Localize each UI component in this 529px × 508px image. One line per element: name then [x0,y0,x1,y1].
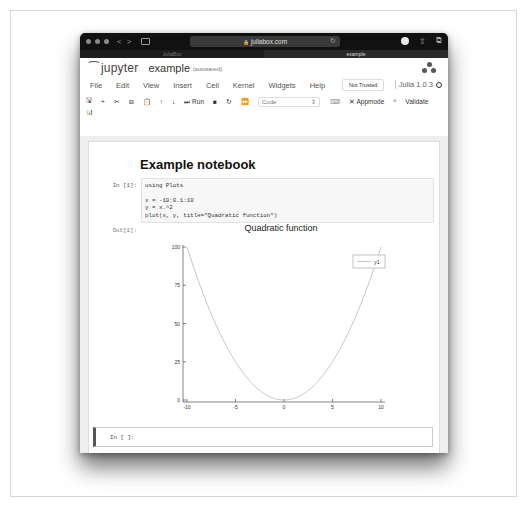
code-cell[interactable]: In [1]: using Plots x = -10:0.1:10 y = x… [89,178,439,223]
stop-icon[interactable]: ■ [213,98,217,105]
validate-button[interactable]: Validate [405,98,428,105]
keyboard-icon[interactable]: ⌨ [330,98,340,106]
menu-kernel[interactable]: Kernel [233,81,255,90]
menu-edit[interactable]: Edit [116,81,129,90]
svg-text:-10: -10 [183,404,190,410]
appmode-button[interactable]: ✕ Appmode [349,98,384,106]
notebook-title: Example notebook [140,157,439,172]
fast-forward-icon[interactable]: ⏩ [241,98,249,106]
kernel-name: Julia 1.0.3 [399,80,433,89]
minimize-dot-icon[interactable] [95,39,100,44]
empty-code-cell[interactable]: In [ ]: [93,427,433,447]
output-prompt: Out[1]: [89,227,141,417]
svg-text:5: 5 [331,404,334,410]
tab-juliabox[interactable]: JuliaBox [80,50,264,58]
jupyter-brand[interactable]: jupyter [101,61,138,75]
paste-icon[interactable]: 📋 [143,98,151,106]
reload-icon[interactable]: ↻ [330,37,336,45]
svg-text:75: 75 [174,282,180,288]
svg-text:25: 25 [174,359,180,365]
cut-icon[interactable]: ✂ [114,98,120,106]
caret-up-icon[interactable]: ^ [393,98,396,105]
tab-example[interactable]: example [264,50,448,58]
window-controls [86,39,109,44]
download-icon[interactable] [401,37,409,45]
plot-output: Quadratic function 0255075100-10-50510 y… [141,227,401,417]
menu-file[interactable]: File [90,81,102,90]
browser-window: < > 🔒 juliabox.com ↻ ⇧ ⧉ JuliaBox exampl… [80,33,448,453]
run-icon: ⏭ [184,98,190,105]
cell-type-select[interactable]: Code ⇕ [258,97,320,107]
appmode-icon: ✕ [349,98,355,105]
chart-icon[interactable]: 📊 [86,109,93,115]
svg-text:0: 0 [283,404,286,410]
cell-type-value: Code [262,99,276,105]
restart-icon[interactable]: ↻ [226,98,232,106]
notebook-toolbar: 🖫 + ✂ ⧉ 📋 ↑ ↓ ⏭ Run ■ ↻ ⏩ Code ⇕ ⌨ ✕ App… [80,93,448,119]
juliabox-logo-icon [422,62,436,74]
svg-text:100: 100 [172,244,181,250]
svg-text:y1: y1 [374,259,380,265]
plot-series-y1 [187,247,381,400]
svg-text:50: 50 [174,321,180,327]
run-button[interactable]: ⏭ Run [184,98,204,106]
menu-bar: File Edit View Insert Cell Kernel Widget… [80,77,448,93]
cell-output: Out[1]: Quadratic function 0255075100-10… [89,227,439,417]
address-bar[interactable]: 🔒 juliabox.com [190,36,340,47]
appmode-label: Appmode [356,98,384,105]
forward-arrow-icon[interactable]: > [127,37,132,46]
select-arrows-icon: ⇕ [311,98,316,105]
url-text: juliabox.com [251,38,287,45]
plus-icon[interactable]: + [101,98,105,105]
copy-icon[interactable]: ⧉ [129,98,134,106]
run-label: Run [192,98,204,105]
jupyter-logo-icon[interactable]: ⁀ [89,61,99,75]
menu-view[interactable]: View [143,81,159,90]
input-prompt: In [1]: [89,178,141,223]
sidebar-icon[interactable] [141,38,150,45]
back-arrow-icon[interactable]: < [117,37,122,46]
kernel-indicator: Julia 1.0.3 [395,80,442,89]
svg-text:-5: -5 [233,404,238,410]
close-dot-icon[interactable] [86,39,91,44]
jupyter-header: ⁀ jupyter example (autosaved) [80,58,448,77]
lock-icon: 🔒 [243,39,249,45]
notebook-container: Example notebook In [1]: using Plots x =… [80,136,448,453]
autosave-status: (autosaved) [193,66,222,72]
quadratic-plot: 0255075100-10-50510 y1 [141,227,401,417]
arrow-up-icon[interactable]: ↑ [160,98,163,105]
share-icon[interactable]: ⇧ [419,37,426,46]
code-editor[interactable]: using Plots x = -10:0.1:10 y = x.^2 plot… [141,178,434,223]
not-trusted-button[interactable]: Not Trusted [342,79,384,91]
zoom-dot-icon[interactable] [104,39,109,44]
notebook-name[interactable]: example [148,62,190,74]
arrow-down-icon[interactable]: ↓ [172,98,175,105]
svg-text:0: 0 [177,397,180,403]
save-icon[interactable]: 🖫 [86,96,92,107]
notebook-page: Example notebook In [1]: using Plots x =… [88,141,440,453]
menu-widgets[interactable]: Widgets [269,81,296,90]
menu-cell[interactable]: Cell [206,81,219,90]
plot-axes: 0255075100-10-50510 [172,244,385,410]
tab-strip: JuliaBox example [80,50,448,58]
menu-insert[interactable]: Insert [173,81,192,90]
tabs-icon[interactable]: ⧉ [436,36,442,46]
kernel-idle-icon [436,82,442,88]
legend: y1 [353,255,385,268]
menu-help[interactable]: Help [310,81,325,90]
svg-text:10: 10 [378,404,384,410]
browser-toolbar: < > 🔒 juliabox.com ↻ ⇧ ⧉ [80,33,448,50]
empty-input-prompt: In [ ]: [96,434,134,441]
